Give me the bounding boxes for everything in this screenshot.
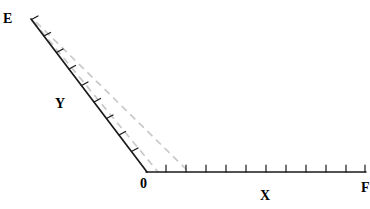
- oblique-axis-line: [31, 19, 147, 172]
- oblique-tick-4: [82, 82, 89, 86]
- oblique-tick-8: [132, 148, 139, 152]
- oblique-tick-7: [119, 132, 126, 136]
- dashed-guide-1-line: [33, 21, 158, 172]
- axis-name-label-y: Y: [55, 97, 65, 111]
- axis-end-label-f: F: [361, 181, 370, 195]
- diagram-canvas: E Y 0 X F: [0, 0, 370, 209]
- oblique-axis-ticks: [32, 16, 139, 152]
- horizontal-axis-ticks: [166, 165, 365, 172]
- oblique-tick-0: [32, 16, 39, 20]
- axis-end-label-e: E: [3, 12, 12, 26]
- origin-label: 0: [140, 177, 147, 191]
- horizontal-axis-X: [146, 165, 366, 172]
- oblique-axis-Y: [31, 16, 147, 172]
- axis-name-label-x: X: [260, 189, 270, 203]
